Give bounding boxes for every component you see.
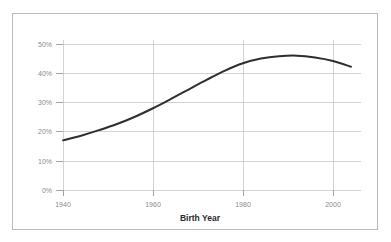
y-tick-label-30: 30%	[38, 99, 52, 106]
y-tick-label-0: 0%	[42, 187, 52, 194]
x-tick-label-2000: 2000	[325, 201, 341, 208]
x-axis-title: Birth Year	[180, 213, 221, 223]
x-tick-label-1960: 1960	[145, 201, 161, 208]
y-tick-label-40: 40%	[38, 70, 52, 77]
line-chart-plot: 50% 40% 30% 20% 10% 0% 1940 1960 1980 20…	[0, 0, 391, 242]
y-axis-tickmarks	[56, 44, 63, 190]
y-tick-label-20: 20%	[38, 128, 52, 135]
chart-figure: 50% 40% 30% 20% 10% 0% 1940 1960 1980 20…	[0, 0, 391, 242]
x-axis-tickmarks	[63, 190, 333, 196]
x-tick-label-1940: 1940	[55, 201, 71, 208]
x-axis-labels: 1940 1960 1980 2000	[55, 201, 341, 208]
y-tick-label-50: 50%	[38, 41, 52, 48]
y-tick-label-10: 10%	[38, 158, 52, 165]
y-axis-labels: 50% 40% 30% 20% 10% 0%	[38, 41, 52, 194]
x-tick-label-1980: 1980	[235, 201, 251, 208]
horizontal-gridlines	[63, 44, 361, 190]
vertical-gridlines	[63, 40, 333, 190]
data-series-line	[63, 56, 351, 141]
